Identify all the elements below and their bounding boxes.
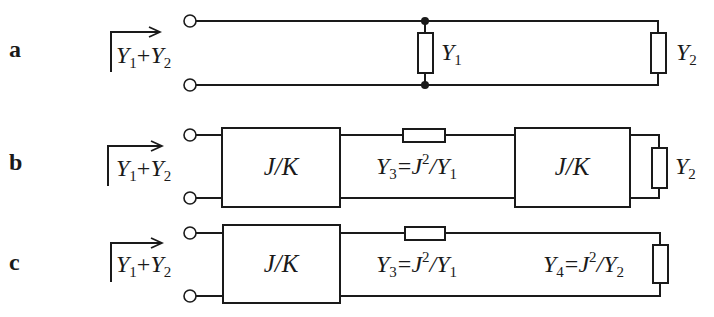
input-terminal-top-a <box>184 15 196 27</box>
input-terminal-bottom-a <box>184 79 196 91</box>
inverter-block-2-b: J/K <box>515 128 630 207</box>
series-label-y3-c: Y3=J2/Y1 <box>376 249 457 280</box>
label-y2-a: Y2 <box>676 39 697 68</box>
input-terminal-bottom-c <box>184 290 196 302</box>
row-a: a Y1+Y2 Y1 Y2 <box>9 15 697 91</box>
inverter-block-1-b: J/K <box>222 128 340 207</box>
inverter-label-2-b: J/K <box>555 153 591 180</box>
inverter-label-1-c: J/K <box>264 250 300 277</box>
row-label-b: b <box>9 149 22 175</box>
load-resistor-y2-b <box>652 148 667 188</box>
resistor-y2 <box>651 33 666 73</box>
load-resistor-y4-c <box>653 245 668 283</box>
bottom-rail-c <box>340 283 660 296</box>
row-label-c: c <box>9 249 20 275</box>
load-admittance-y2-a: Y2 <box>651 33 697 73</box>
junction-dot-top <box>421 17 429 25</box>
input-admittance-arrow-a: Y1+Y2 <box>111 32 171 72</box>
load-label-y2-b: Y2 <box>675 153 696 182</box>
series-label-y3-b: Y3=J2/Y1 <box>376 151 457 182</box>
input-terminal-top-c <box>184 227 196 239</box>
shunt-admittance-y1-a: Y1 <box>418 17 462 89</box>
input-terminal-top-b <box>184 129 196 141</box>
row-c: c Y1+Y2 J/K Y3=J2/Y1 Y4=J2/Y2 <box>9 225 668 303</box>
input-admittance-label-a: Y1+Y2 <box>116 42 171 71</box>
inverter-label-1-b: J/K <box>264 153 300 180</box>
series-resistor-y3-c <box>405 227 445 240</box>
resistor-y1 <box>418 33 433 73</box>
input-admittance-arrow-b: Y1+Y2 <box>108 146 171 186</box>
junction-dot-bottom <box>421 81 429 89</box>
label-y1-a: Y1 <box>441 39 462 68</box>
row-label-a: a <box>9 36 21 62</box>
input-admittance-label-b: Y1+Y2 <box>116 155 171 184</box>
row-b: b Y1+Y2 J/K Y3=J2/Y1 J/K <box>9 128 696 207</box>
input-admittance-arrow-c: Y1+Y2 <box>111 243 171 282</box>
input-terminal-bottom-b <box>184 192 196 204</box>
top-rail-c <box>340 233 660 245</box>
inverter-block-1-c: J/K <box>223 225 340 303</box>
series-resistor-y3-b <box>403 129 445 142</box>
load-label-y4-c: Y4=J2/Y2 <box>543 249 624 280</box>
input-admittance-label-c: Y1+Y2 <box>116 251 171 280</box>
circuit-figure: a Y1+Y2 Y1 Y2 <box>0 0 714 317</box>
